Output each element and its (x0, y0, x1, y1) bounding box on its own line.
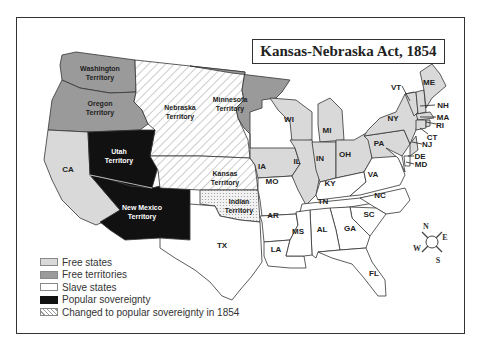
label-sc: SC (363, 210, 374, 219)
slave-states-swatch (40, 283, 58, 291)
label-nh: NH (437, 101, 449, 110)
map-legend: Free states Free territories Slave state… (40, 256, 239, 319)
compass-n: N (423, 222, 429, 231)
changed-1854-swatch (40, 308, 58, 316)
label-washington-2: Territory (86, 74, 114, 82)
label-nebraska: Nebraska (164, 104, 196, 111)
label-me: ME (423, 78, 436, 87)
compass-w: W (413, 244, 421, 253)
legend-label: Slave states (62, 282, 116, 293)
label-ri: RI (436, 121, 444, 130)
label-il: IL (293, 157, 300, 166)
label-ga: GA (344, 224, 356, 233)
map-title: Kansas-Nebraska Act, 1854 (260, 43, 436, 60)
label-ms: MS (292, 227, 305, 236)
label-ky: KY (324, 179, 336, 188)
label-va: VA (368, 170, 379, 179)
label-mi: MI (323, 126, 332, 135)
michigan (318, 98, 344, 142)
label-new-mexico: New Mexico (122, 204, 162, 211)
legend-label: Free states (62, 257, 112, 268)
kansas-territory (150, 156, 258, 190)
legend-label: Popular sovereignty (62, 294, 150, 305)
label-tx: TX (217, 241, 228, 250)
compass-s: S (436, 256, 441, 265)
label-tn: TN (318, 197, 329, 206)
label-al: AL (317, 225, 328, 234)
label-nc: NC (374, 191, 386, 200)
label-ar: AR (267, 211, 279, 220)
label-ny: NY (387, 114, 399, 123)
legend-label: Changed to popular sovereignty in 1854 (62, 307, 239, 318)
label-kansas: Kansas (213, 170, 238, 177)
label-utah-2: Territory (105, 157, 133, 165)
popular-sovereignty-swatch (40, 296, 58, 304)
legend-item-changed-1854: Changed to popular sovereignty in 1854 (40, 306, 239, 318)
label-oregon-2: Territory (86, 109, 114, 117)
label-nebraska-2: Territory (166, 113, 194, 121)
label-minnesota-2: Territory (216, 105, 244, 113)
label-pa: PA (374, 139, 385, 148)
label-new-mexico-2: Territory (128, 213, 156, 221)
label-mo: MO (266, 177, 279, 186)
label-oregon: Oregon (88, 100, 113, 108)
label-md: MD (415, 160, 428, 169)
legend-item-free-territories: Free territories (40, 269, 239, 281)
label-kansas-2: Territory (211, 179, 239, 187)
rhode-island (426, 120, 430, 127)
label-ca: CA (62, 165, 74, 174)
label-indian-2: Territory (225, 207, 253, 215)
label-nj: NJ (422, 140, 432, 149)
free-territories-swatch (40, 271, 58, 279)
legend-item-popular-sovereignty: Popular sovereignty (40, 294, 239, 306)
label-fl: FL (369, 269, 379, 278)
map-title-box: Kansas-Nebraska Act, 1854 (252, 39, 445, 64)
legend-item-slave-states: Slave states (40, 281, 239, 293)
label-wi: WI (284, 115, 294, 124)
label-minnesota: Minnesota (213, 96, 248, 103)
label-utah: Utah (111, 148, 127, 155)
legend-item-free-states: Free states (40, 256, 239, 268)
label-la: LA (271, 245, 282, 254)
free-states-swatch (40, 258, 58, 266)
label-washington: Washington (80, 65, 120, 73)
label-ia: IA (258, 162, 266, 171)
label-indian: Indian (229, 198, 250, 205)
label-oh: OH (339, 150, 351, 159)
delaware (404, 156, 410, 166)
label-in: IN (316, 154, 324, 163)
compass-rose-icon: N E S W (413, 222, 448, 265)
compass-e: E (442, 233, 447, 242)
label-vt: VT (391, 83, 401, 92)
legend-label: Free territories (62, 269, 127, 280)
